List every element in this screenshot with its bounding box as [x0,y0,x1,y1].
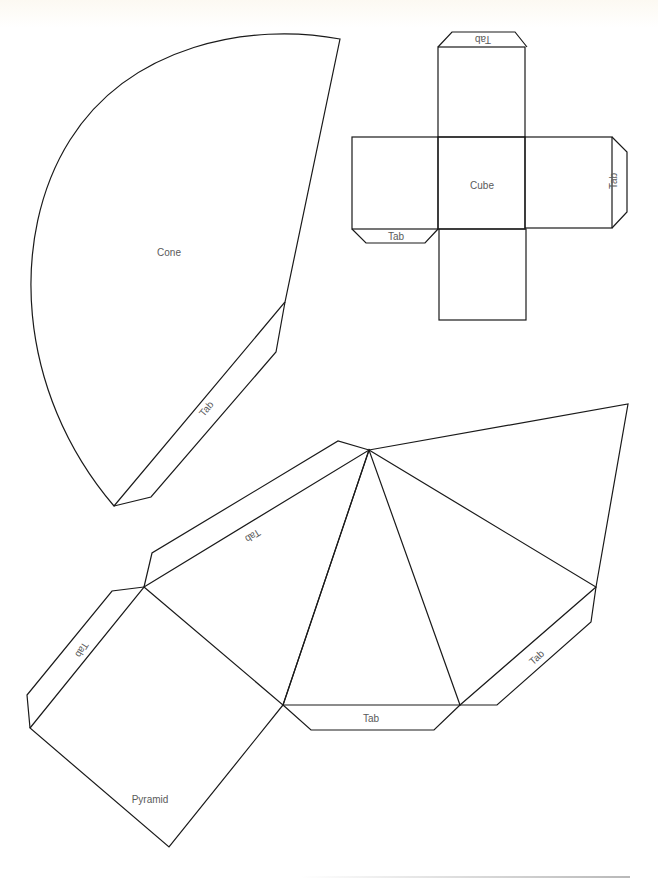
pyramid-face-right [369,450,596,705]
pyramid-face-left [144,450,369,705]
shape-nets-canvas: Cone Tab Cube Tab Tab Tab Pyramid Tab Ta… [0,0,658,880]
cube-net: Cube Tab Tab Tab [352,32,627,320]
cube-face-left [352,137,438,229]
pyramid-tab-bottom-label: Tab [363,713,380,724]
pyramid-label: Pyramid [132,794,169,805]
pyramid-base-square [30,587,283,847]
cube-tab-right-label: Tab [608,173,619,190]
cone-sector [31,34,340,506]
cone-label: Cone [157,247,181,258]
pyramid-tab-left-label: Tab [73,640,91,660]
pyramid-net: Pyramid Tab Tab Tab Tab [27,404,628,847]
pyramid-tab-upper-left [144,441,369,587]
cube-face-right [525,137,612,228]
cone-net: Cone Tab [31,34,340,506]
scan-edge-line [300,876,630,878]
cone-tab-label: Tab [197,399,216,419]
cube-tab-top-label: Tab [475,34,492,45]
cube-label: Cube [470,180,494,191]
cube-face-top [438,47,525,137]
cube-face-bottom [439,229,526,320]
pyramid-tab-upper-left-label: Tab [243,527,263,545]
cube-tab-left-label: Tab [388,231,405,242]
